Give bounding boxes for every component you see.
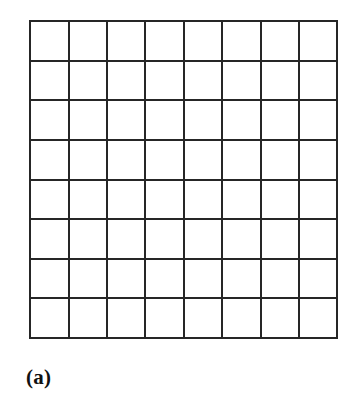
grid-cell <box>222 298 260 337</box>
grid-cell <box>145 100 183 140</box>
grid-cell <box>107 61 145 101</box>
grid-cell <box>261 21 299 61</box>
grid-cell <box>145 61 183 101</box>
grid-cell <box>222 100 260 140</box>
grid-cell <box>145 219 183 259</box>
grid-cell <box>107 140 145 180</box>
grid-cell <box>30 180 68 220</box>
grid-cell <box>184 61 222 101</box>
grid-cell <box>69 21 107 61</box>
grid-cell <box>107 100 145 140</box>
grid-cell <box>261 219 299 259</box>
grid-cell <box>184 219 222 259</box>
grid-cell <box>299 61 337 101</box>
grid-cell <box>222 61 260 101</box>
grid-cell <box>261 100 299 140</box>
grid-cell <box>184 298 222 337</box>
grid-cell <box>261 259 299 299</box>
grid-cell <box>30 140 68 180</box>
grid-cell <box>30 219 68 259</box>
grid-cell <box>222 219 260 259</box>
grid-cell <box>69 180 107 220</box>
grid-cell <box>145 140 183 180</box>
grid-cell <box>222 21 260 61</box>
grid-cell <box>299 100 337 140</box>
grid-cell <box>30 298 68 337</box>
grid-cell <box>222 180 260 220</box>
grid-cell <box>184 180 222 220</box>
grid-cell <box>299 219 337 259</box>
grid-cell <box>184 100 222 140</box>
grid-svg <box>29 20 338 339</box>
grid-cell <box>299 180 337 220</box>
grid-cell <box>69 140 107 180</box>
grid-cell <box>261 61 299 101</box>
grid-cell <box>299 298 337 337</box>
grid-cell <box>107 180 145 220</box>
grid-cell <box>30 100 68 140</box>
grid-cell <box>69 100 107 140</box>
grid-cell <box>30 21 68 61</box>
grid-cell <box>107 21 145 61</box>
grid-cell <box>145 180 183 220</box>
grid-cell <box>299 140 337 180</box>
grid-cell <box>184 140 222 180</box>
grid-cell <box>261 298 299 337</box>
grid-cell <box>299 259 337 299</box>
grid-cell <box>69 61 107 101</box>
grid-cell <box>107 298 145 337</box>
subfigure-label: (a) <box>26 364 51 390</box>
grid-cell <box>145 259 183 299</box>
grid-cell <box>30 61 68 101</box>
figure-container: (a) <box>0 0 357 411</box>
grid-cell <box>145 21 183 61</box>
grid-cell <box>261 140 299 180</box>
grid-cell <box>69 298 107 337</box>
grid-cell <box>184 259 222 299</box>
grid-cell <box>222 140 260 180</box>
grid-cell <box>107 259 145 299</box>
grid-cell <box>145 298 183 337</box>
grid-cell <box>69 259 107 299</box>
grid-cell <box>299 21 337 61</box>
grid-cell <box>107 219 145 259</box>
grid-figure <box>29 20 338 339</box>
grid-cell <box>261 180 299 220</box>
grid-cell <box>222 259 260 299</box>
grid-cell <box>30 259 68 299</box>
grid-cell <box>69 219 107 259</box>
grid-cell <box>184 21 222 61</box>
